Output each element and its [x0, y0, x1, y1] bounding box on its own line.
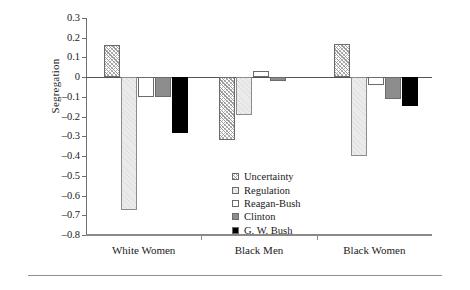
legend-swatch-uncertainty [232, 173, 239, 180]
y-tick [82, 156, 86, 157]
legend-item-clinton[interactable]: Clinton [232, 210, 352, 223]
legend-label: Regulation [244, 185, 290, 196]
y-tick [82, 18, 86, 19]
y-axis-title: Segregation [49, 31, 65, 141]
bar-white-women-clinton [155, 77, 171, 97]
y-tick-label: –0.1 [40, 92, 80, 102]
bar-black-women-regulation [351, 77, 367, 156]
x-tick [201, 235, 202, 240]
legend-label: Reagan-Bush [244, 198, 301, 209]
bar-black-women-uncertainty [334, 44, 350, 78]
y-tick [82, 176, 86, 177]
y-tick-label: –0.5 [40, 171, 80, 181]
y-tick-label: 0.2 [40, 33, 80, 43]
bar-black-women-reagan-bush [368, 77, 384, 85]
legend-item-g-w-bush[interactable]: G. W. Bush [232, 224, 352, 237]
y-tick-label: –0.8 [40, 230, 80, 240]
bar-black-men-reagan-bush [253, 71, 269, 77]
chart-figure: Segregation 0.30.20.10–0.1–0.2–0.3–0.4–0… [0, 0, 470, 290]
y-tick [82, 117, 86, 118]
legend-label: G. W. Bush [244, 225, 292, 236]
legend-label: Clinton [244, 211, 276, 222]
figure-bottom-rule [28, 275, 442, 276]
y-tick [82, 215, 86, 216]
legend-swatch-regulation [232, 187, 239, 194]
x-axis-label-black-women: Black Women [309, 244, 439, 256]
bar-black-men-uncertainty [219, 77, 235, 140]
legend-swatch-clinton [232, 213, 239, 220]
bar-black-women-clinton [385, 77, 401, 99]
y-tick [82, 57, 86, 58]
bar-white-women-uncertainty [104, 45, 120, 78]
bar-black-men-clinton [270, 77, 286, 81]
chart-legend: UncertaintyRegulationReagan-BushClintonG… [232, 170, 352, 237]
legend-swatch-g-w-bush [232, 227, 239, 234]
y-tick-label: –0.2 [40, 112, 80, 122]
y-tick-label: –0.3 [40, 131, 80, 141]
bar-black-men-regulation [236, 77, 252, 114]
x-axis-label-black-men: Black Men [194, 244, 324, 256]
bar-white-women-regulation [121, 77, 137, 210]
y-tick-label: –0.6 [40, 191, 80, 201]
legend-item-uncertainty[interactable]: Uncertainty [232, 170, 352, 183]
y-tick-label: –0.7 [40, 210, 80, 220]
y-tick [82, 136, 86, 137]
y-tick-label: 0 [40, 72, 80, 82]
y-tick [82, 38, 86, 39]
y-axis-line [86, 18, 87, 235]
bar-white-women-reagan-bush [138, 77, 154, 97]
legend-item-regulation[interactable]: Regulation [232, 183, 352, 196]
bar-white-women-g-w-bush [172, 77, 188, 133]
y-tick [82, 77, 86, 78]
y-tick [82, 97, 86, 98]
bar-black-women-g-w-bush [402, 77, 418, 106]
bar-group-white-women [104, 18, 188, 235]
y-tick [82, 196, 86, 197]
legend-label: Uncertainty [244, 171, 294, 182]
x-axis-label-white-women: White Women [79, 244, 209, 256]
y-tick-label: –0.4 [40, 151, 80, 161]
y-tick-label: 0.1 [40, 52, 80, 62]
y-tick-label: 0.3 [40, 13, 80, 23]
legend-swatch-reagan-bush [232, 200, 239, 207]
legend-item-reagan-bush[interactable]: Reagan-Bush [232, 197, 352, 210]
